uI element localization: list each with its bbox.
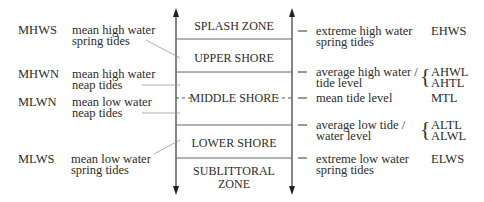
abbr-mhwn: MHWN [18, 68, 59, 80]
zone-sublittoral-line1: SUBLITTORAL [176, 165, 292, 177]
abbr-ahtl: AHTL [431, 77, 464, 89]
zone-splash: SPLASH ZONE [176, 20, 292, 32]
zone-middle-shore: MIDDLE SHORE [176, 92, 292, 104]
abbr-mtl: MTL [431, 92, 457, 104]
zone-sublittoral-line2: ZONE [176, 178, 292, 190]
desc-mlwn-line2: neap tides [72, 107, 122, 119]
up-arrow-icon [289, 8, 295, 17]
desc-elws-line2: spring tides [316, 164, 374, 176]
abbr-mlws: MLWS [18, 153, 55, 165]
up-arrow-icon [173, 8, 179, 17]
zone-upper-shore: UPPER SHORE [176, 52, 292, 64]
abbr-mlwn: MLWN [18, 96, 57, 108]
abbr-ehws: EHWS [431, 25, 466, 37]
desc-mtl: mean tide level [316, 92, 392, 104]
abbr-alwl: ALWL [431, 130, 466, 142]
desc-ehws-line2: spring tides [316, 36, 374, 48]
pointer-mhws [146, 40, 180, 58]
desc-mhwn-line2: neap tides [72, 79, 122, 91]
desc-ahwl-line2: tide level [316, 77, 362, 89]
desc-altl-line2: water level [316, 130, 371, 142]
brace-icon: { [420, 65, 431, 87]
desc-mhws-line2: spring tides [72, 35, 130, 47]
zone-lower-shore: LOWER SHORE [176, 137, 292, 149]
abbr-mhws: MHWS [18, 24, 57, 36]
desc-mlws-line2: spring tides [71, 164, 129, 176]
brace-icon: { [420, 118, 431, 140]
abbr-elws: ELWS [431, 153, 464, 165]
